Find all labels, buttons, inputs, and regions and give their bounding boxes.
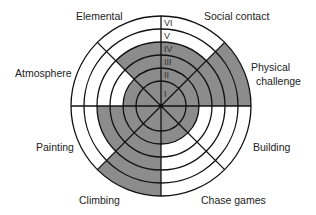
- label-elemental: Elemental: [76, 10, 123, 22]
- ring-label: II: [164, 70, 169, 80]
- label-painting: Painting: [36, 141, 74, 153]
- radial-diagram: IIIIIIIVVVI: [0, 0, 316, 215]
- label-climbing: Climbing: [79, 194, 120, 206]
- label-social-contact: Social contact: [204, 10, 269, 22]
- label-physical-challenge-1: Physical: [251, 61, 290, 73]
- ring-label: III: [164, 57, 172, 67]
- label-physical-challenge-2: challenge: [256, 75, 301, 87]
- label-atmosphere: Atmosphere: [15, 67, 72, 79]
- label-building: Building: [253, 141, 290, 153]
- ring-label: IV: [164, 44, 173, 54]
- ring-label: V: [164, 31, 170, 41]
- ring-label: I: [164, 89, 167, 99]
- label-chase-games: Chase games: [201, 194, 266, 206]
- spokes: [71, 16, 251, 196]
- ring-label: VI: [164, 18, 173, 28]
- center-dot: [159, 104, 163, 108]
